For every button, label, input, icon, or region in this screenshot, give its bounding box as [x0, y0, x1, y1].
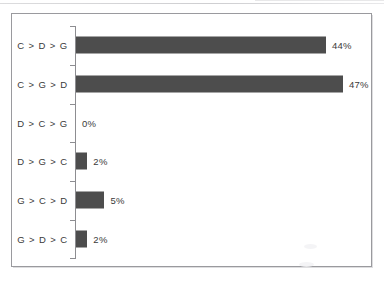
bar-row: C > G > D 47% — [12, 65, 371, 103]
category-label: D > G > C — [17, 156, 68, 167]
category-label: C > G > D — [17, 79, 68, 90]
bar-row: D > G > C 2% — [12, 142, 371, 180]
bar-value-label: 2% — [93, 234, 107, 245]
chart-frame: C > D > G 44% C > G > D 47% D > C > G 0%… — [11, 13, 372, 267]
category-label: D > C > G — [17, 118, 68, 129]
bar-row: G > D > C 2% — [12, 220, 371, 258]
bar-value-label: 44% — [332, 40, 352, 51]
bar-value-label: 2% — [93, 156, 107, 167]
bar-value-label: 0% — [82, 118, 96, 129]
bar-group: 44% — [76, 37, 352, 54]
bar-group: 2% — [76, 231, 108, 248]
bar[interactable] — [76, 37, 326, 54]
category-label: G > C > D — [17, 195, 68, 206]
scan-artifact-line-top-right — [255, 0, 384, 1]
bar[interactable] — [76, 231, 87, 248]
bar-row: G > C > D 5% — [12, 181, 371, 219]
bar-group: 2% — [76, 153, 108, 170]
bar[interactable] — [76, 192, 104, 209]
bar-value-label: 5% — [110, 195, 124, 206]
scan-artifact-line-top — [0, 3, 384, 4]
bar[interactable] — [76, 76, 343, 93]
scan-artifact-smudge — [299, 262, 314, 267]
bar-group: 47% — [76, 76, 369, 93]
category-label: C > D > G — [17, 40, 68, 51]
bar[interactable] — [76, 153, 87, 170]
plot-area: C > D > G 44% C > G > D 47% D > C > G 0%… — [12, 14, 371, 266]
bar-group: 5% — [76, 192, 125, 209]
bar-group: 0% — [76, 115, 96, 132]
axis-tick — [70, 258, 75, 259]
bar-row: D > C > G 0% — [12, 104, 371, 142]
category-label: G > D > C — [17, 234, 68, 245]
bar-value-label: 47% — [349, 79, 369, 90]
bar-row: C > D > G 44% — [12, 26, 371, 64]
